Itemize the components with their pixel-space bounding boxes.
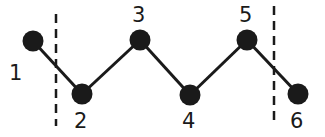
- node-label-1: 1: [9, 61, 22, 85]
- node-1: [23, 31, 44, 52]
- node-label-6: 6: [290, 109, 303, 133]
- edge-3-4: [140, 40, 190, 95]
- node-3: [130, 30, 151, 51]
- node-label-4: 4: [182, 109, 195, 133]
- zigzag-chain-diagram: 123456: [0, 0, 325, 137]
- node-label-5: 5: [239, 3, 252, 27]
- edge-2-3: [82, 40, 140, 94]
- node-label-2: 2: [74, 109, 87, 133]
- node-label-3: 3: [132, 3, 145, 27]
- node-5: [237, 30, 258, 51]
- node-2: [72, 84, 93, 105]
- node-6: [288, 84, 309, 105]
- edge-5-6: [247, 40, 298, 94]
- node-4: [180, 85, 201, 106]
- chain-edges: [33, 40, 298, 95]
- edge-1-2: [33, 41, 82, 94]
- edge-4-5: [190, 40, 247, 95]
- node-labels: 123456: [9, 3, 303, 133]
